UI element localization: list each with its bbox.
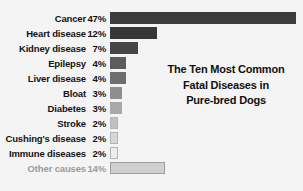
bar: [110, 132, 118, 144]
category-label: Bloat: [0, 89, 86, 99]
category-label: Liver disease: [0, 74, 86, 84]
value-label: 2%: [86, 134, 106, 144]
bar-track: [110, 116, 303, 131]
category-label: Stroke: [0, 119, 86, 129]
chart-row: Cushing's disease2%: [0, 131, 303, 146]
category-label: Diabetes: [0, 104, 86, 114]
bar-track: [110, 161, 303, 176]
bar-chart: Cancer47%Heart disease12%Kidney disease7…: [0, 0, 303, 191]
bar-track: [110, 131, 303, 146]
chart-title-line-3: Pure-bred Dogs: [152, 93, 300, 109]
value-label: 2%: [86, 149, 106, 159]
chart-row: Stroke2%: [0, 116, 303, 131]
value-label: 4%: [86, 59, 106, 69]
bar: [110, 147, 118, 159]
chart-title: The Ten Most Common Fatal Diseases in Pu…: [152, 62, 300, 109]
category-label: Immune diseases: [0, 149, 86, 159]
value-label: 2%: [86, 119, 106, 129]
bar: [110, 117, 118, 129]
bar: [110, 102, 122, 114]
value-label: 4%: [86, 74, 106, 84]
bar: [110, 72, 126, 84]
value-label: 14%: [86, 164, 106, 174]
bar: [110, 12, 296, 24]
category-label: Cancer: [0, 14, 86, 24]
bar-track: [110, 146, 303, 161]
bar: [110, 27, 157, 39]
chart-row: Kidney disease7%: [0, 41, 303, 56]
bar: [110, 87, 122, 99]
category-label: Cushing's disease: [0, 134, 86, 144]
value-label: 47%: [86, 14, 106, 24]
category-label: Other causes: [0, 164, 86, 174]
category-label: Kidney disease: [0, 44, 86, 54]
category-label: Epilepsy: [0, 59, 86, 69]
chart-row: Cancer47%: [0, 11, 303, 26]
value-label: 12%: [86, 29, 106, 39]
value-label: 3%: [86, 104, 106, 114]
category-label: Heart disease: [0, 29, 86, 39]
bar-track: [110, 26, 303, 41]
bar-track: [110, 11, 303, 26]
bar: [110, 162, 165, 174]
chart-row: Immune diseases2%: [0, 146, 303, 161]
bar-track: [110, 41, 303, 56]
bar: [110, 57, 126, 69]
value-label: 3%: [86, 89, 106, 99]
chart-row: Other causes14%: [0, 161, 303, 176]
chart-title-line-1: The Ten Most Common: [152, 62, 300, 78]
bar: [110, 42, 138, 54]
chart-row: Heart disease12%: [0, 26, 303, 41]
chart-title-line-2: Fatal Diseases in: [152, 78, 300, 94]
value-label: 7%: [86, 44, 106, 54]
